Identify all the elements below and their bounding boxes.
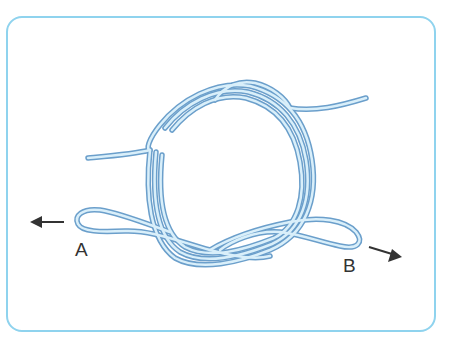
knot-illustration bbox=[0, 0, 449, 338]
arrow-right-icon bbox=[369, 247, 402, 262]
label-b: B bbox=[343, 256, 356, 275]
arrow-left-icon bbox=[30, 216, 64, 228]
label-a: A bbox=[75, 240, 88, 259]
rope-outline bbox=[77, 82, 366, 265]
